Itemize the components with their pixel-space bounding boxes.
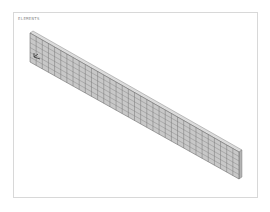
meshed-beam-model[interactable] (0, 0, 270, 212)
beam-mesh (30, 31, 242, 179)
graphics-viewport[interactable]: ELEMENTS (0, 0, 270, 212)
